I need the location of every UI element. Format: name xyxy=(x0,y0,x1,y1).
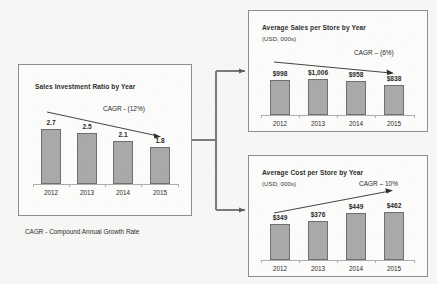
sales-axis-tick xyxy=(261,115,262,118)
left-axis-line xyxy=(33,184,179,185)
cost-cagr-label: CAGR – 10% xyxy=(359,180,398,187)
arrowhead-sales xyxy=(239,68,245,73)
left-axis-tick xyxy=(69,184,70,187)
diagram-canvas: Sales Investment Ratio by Year CAGR - (1… xyxy=(0,0,437,284)
left-axis-tick xyxy=(33,184,34,187)
cost-axis-tick xyxy=(261,260,262,263)
cost-axis-tick xyxy=(299,260,300,263)
cost-axis-tick xyxy=(414,260,415,263)
left-cagr-label: CAGR - (12%) xyxy=(103,105,145,112)
bar-2014[interactable] xyxy=(346,213,366,260)
cost-axis-tick xyxy=(337,260,338,263)
cat-label-2014: 2014 xyxy=(341,120,371,127)
sales-axis-tick xyxy=(299,115,300,118)
bar-value-2014: $958 xyxy=(337,71,375,78)
bar-value-2015: 1.8 xyxy=(145,137,175,144)
bar-2013[interactable] xyxy=(308,79,328,115)
bar-value-2012: 2.7 xyxy=(36,119,66,126)
sales-axis-tick xyxy=(414,115,415,118)
sales-axis-tick xyxy=(375,115,376,118)
bar-value-2014: $449 xyxy=(337,203,375,210)
left-axis-tick xyxy=(141,184,142,187)
left-axis-tick xyxy=(105,184,106,187)
bar-2013[interactable] xyxy=(77,133,97,184)
bar-value-2012: $998 xyxy=(261,70,299,77)
bar-2015[interactable] xyxy=(384,212,404,260)
cat-label-2015: 2015 xyxy=(145,189,175,196)
bar-2012[interactable] xyxy=(41,129,61,184)
bar-value-2013: $1,006 xyxy=(299,69,337,76)
bar-2015[interactable] xyxy=(150,147,170,184)
cat-label-2014: 2014 xyxy=(341,265,371,272)
cat-label-2014: 2014 xyxy=(108,189,138,196)
cat-label-2013: 2013 xyxy=(303,120,333,127)
bar-value-2015: $838 xyxy=(375,75,413,82)
cost-axis-line xyxy=(261,260,415,261)
bar-2014[interactable] xyxy=(113,141,133,184)
cagr-footnote: CAGR - Compound Annual Growth Rate xyxy=(25,228,139,235)
panel-average-sales-per-store[interactable]: Average Sales per Store by Year (USD, 00… xyxy=(248,10,428,132)
cost-axis-tick xyxy=(375,260,376,263)
cat-label-2012: 2012 xyxy=(265,265,295,272)
cat-label-2015: 2015 xyxy=(379,265,409,272)
sales-axis-line xyxy=(261,115,415,116)
bar-value-2013: 2.5 xyxy=(72,123,102,130)
cat-label-2012: 2012 xyxy=(36,189,66,196)
cat-label-2013: 2013 xyxy=(303,265,333,272)
panel-sales-investment-ratio[interactable]: Sales Investment Ratio by Year CAGR - (1… xyxy=(18,64,192,216)
cat-label-2015: 2015 xyxy=(379,120,409,127)
cat-label-2013: 2013 xyxy=(72,189,102,196)
bar-2013[interactable] xyxy=(308,221,328,260)
bar-2012[interactable] xyxy=(270,80,290,115)
bar-value-2013: $376 xyxy=(299,211,337,218)
bar-2015[interactable] xyxy=(384,85,404,115)
sales-cagr-label: CAGR – (6%) xyxy=(354,49,394,56)
arrowhead-cost xyxy=(239,207,245,212)
sales-axis-tick xyxy=(337,115,338,118)
left-axis-tick xyxy=(178,184,179,187)
bar-value-2012: $349 xyxy=(261,214,299,221)
bar-2012[interactable] xyxy=(270,224,290,260)
bar-2014[interactable] xyxy=(346,81,366,115)
bar-value-2014: 2.1 xyxy=(108,131,138,138)
bar-value-2015: $462 xyxy=(375,202,413,209)
panel-average-cost-per-store[interactable]: Average Cost per Store by Year (USD, 000… xyxy=(248,155,428,277)
cat-label-2012: 2012 xyxy=(265,120,295,127)
